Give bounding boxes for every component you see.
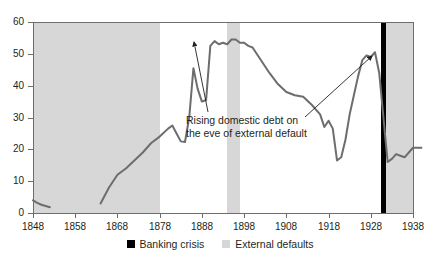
legend-swatch-gray-square-icon [222, 240, 230, 248]
y-axis-label-30: 30 [0, 113, 24, 123]
y-axis-label-60: 60 [0, 17, 24, 27]
y-tick-50 [28, 54, 33, 55]
chart-legend: Banking crisis External defaults [0, 238, 440, 250]
x-tick-1878 [160, 213, 161, 218]
x-axis-label-1888: 1888 [182, 221, 222, 232]
y-axis-label-0: 0 [0, 208, 24, 218]
x-axis-label-1848: 1848 [13, 221, 53, 232]
legend-swatch-black-square-icon [127, 240, 135, 248]
x-tick-1898 [244, 213, 245, 218]
legend-item-banking-crisis: Banking crisis [127, 238, 205, 250]
x-axis-label-1938: 1938 [393, 221, 433, 232]
annotation-line-2: the eve of external default [186, 127, 307, 140]
x-tick-1908 [286, 213, 287, 218]
banking-crisis-marker [381, 22, 386, 213]
y-axis-label-20: 20 [0, 144, 24, 154]
axis-right-rule [413, 22, 414, 214]
external-default-band-3 [383, 22, 413, 213]
y-tick-30 [28, 118, 33, 119]
x-tick-1928 [371, 213, 372, 218]
chart-annotation: Rising domestic debt on the eve of exter… [186, 114, 307, 139]
legend-item-external-defaults: External defaults [222, 238, 313, 250]
y-tick-40 [28, 86, 33, 87]
x-tick-1938 [413, 213, 414, 218]
y-axis-label-10: 10 [0, 176, 24, 186]
x-tick-1858 [75, 213, 76, 218]
x-tick-1918 [329, 213, 330, 218]
chart-container: 60 50 40 30 20 10 0 1848 1858 1868 1878 … [0, 0, 440, 260]
x-axis-label-1898: 1898 [224, 221, 264, 232]
axis-top-rule [33, 22, 413, 23]
axis-bottom-rule [33, 213, 414, 214]
y-tick-60 [28, 22, 33, 23]
y-tick-10 [28, 181, 33, 182]
x-axis-label-1928: 1928 [351, 221, 391, 232]
annotation-line-1: Rising domestic debt on [186, 114, 307, 127]
x-axis-label-1868: 1868 [97, 221, 137, 232]
legend-label-external-defaults: External defaults [235, 238, 313, 250]
external-default-band-1 [33, 22, 160, 213]
x-tick-1888 [202, 213, 203, 218]
x-axis-label-1918: 1918 [309, 221, 349, 232]
axis-left-rule [33, 22, 34, 214]
x-axis-label-1858: 1858 [55, 221, 95, 232]
y-axis-label-50: 50 [0, 49, 24, 59]
y-tick-20 [28, 149, 33, 150]
x-tick-1868 [117, 213, 118, 218]
legend-label-banking-crisis: Banking crisis [140, 238, 205, 250]
x-tick-1848 [33, 213, 34, 218]
y-axis-label-40: 40 [0, 81, 24, 91]
x-axis-label-1878: 1878 [140, 221, 180, 232]
x-axis-label-1908: 1908 [266, 221, 306, 232]
